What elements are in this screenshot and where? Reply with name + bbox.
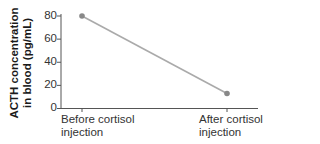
- data-point-marker: [224, 91, 230, 97]
- x-category-after-line-1: After cortisol: [199, 113, 263, 126]
- x-category-after: After cortisolinjection: [199, 113, 263, 139]
- series-line-acth: [82, 16, 227, 93]
- y-ticks: [57, 16, 61, 109]
- x-category-before: Before cortisolinjection: [61, 113, 135, 139]
- x-category-after-line-2: injection: [199, 126, 263, 139]
- data-point-marker: [79, 13, 85, 19]
- x-category-before-line-1: Before cortisol: [61, 113, 135, 126]
- x-category-before-line-2: injection: [61, 126, 135, 139]
